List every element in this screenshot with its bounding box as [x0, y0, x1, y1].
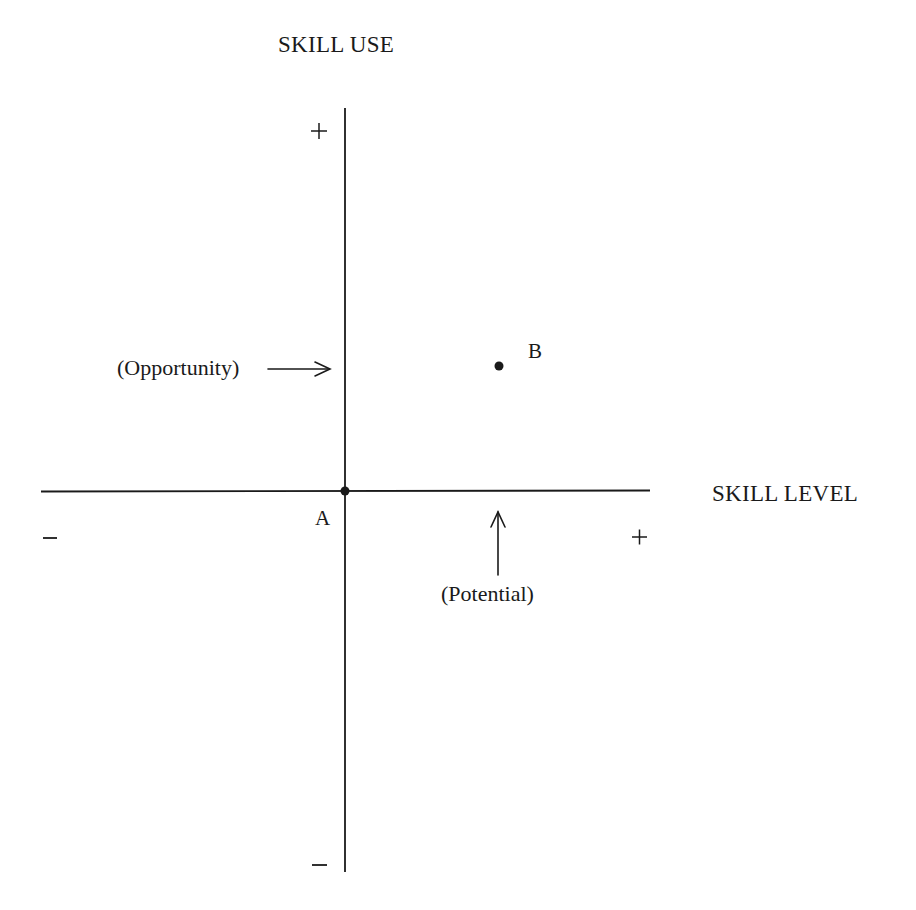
- x-plus-icon: [632, 530, 647, 545]
- diagram-canvas: [0, 0, 916, 910]
- point-b-label: B: [528, 341, 542, 362]
- point-b-dot: [495, 362, 504, 371]
- y-axis-title: SKILL USE: [278, 33, 394, 56]
- point-a-label: A: [315, 508, 330, 529]
- potential-arrow-icon: [491, 512, 505, 575]
- y-plus-icon: [311, 123, 327, 139]
- x-axis-title: SKILL LEVEL: [712, 482, 858, 505]
- opportunity-arrow-icon: [268, 362, 330, 376]
- point-a-dot: [341, 487, 350, 496]
- opportunity-label: (Opportunity): [117, 357, 239, 379]
- potential-label: (Potential): [441, 583, 534, 605]
